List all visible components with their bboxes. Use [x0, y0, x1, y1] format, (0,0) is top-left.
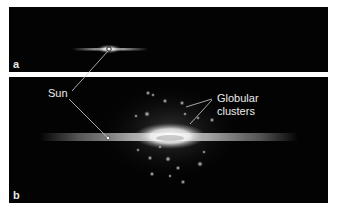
globular-clusters-label-line2: clusters	[217, 105, 255, 117]
sun-label: Sun	[48, 87, 68, 99]
galaxy-illustration	[0, 0, 338, 213]
panel-a-galaxy	[72, 44, 148, 54]
panel-b-galaxy	[40, 82, 298, 185]
globular-clusters-label-line1: Globular	[217, 92, 259, 104]
